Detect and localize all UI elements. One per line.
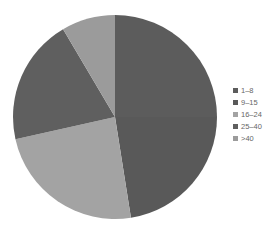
legend-item: 9–15	[233, 96, 262, 108]
legend-swatch	[233, 124, 238, 129]
chart-legend: 1–8 9–15 16–24 25–40 >40	[233, 84, 262, 144]
pie-slice	[115, 117, 217, 218]
pie-chart	[0, 0, 230, 230]
legend-swatch	[233, 88, 238, 93]
legend-swatch	[233, 136, 238, 141]
legend-label: 9–15	[241, 98, 258, 107]
legend-label: 25–40	[241, 122, 262, 131]
pie-slice	[115, 15, 217, 117]
legend-item: 1–8	[233, 84, 262, 96]
legend-item: >40	[233, 132, 262, 144]
legend-item: 16–24	[233, 108, 262, 120]
legend-swatch	[233, 100, 238, 105]
legend-label: 1–8	[241, 86, 254, 95]
legend-swatch	[233, 112, 238, 117]
legend-item: 25–40	[233, 120, 262, 132]
legend-label: 16–24	[241, 110, 262, 119]
legend-label: >40	[241, 134, 254, 143]
